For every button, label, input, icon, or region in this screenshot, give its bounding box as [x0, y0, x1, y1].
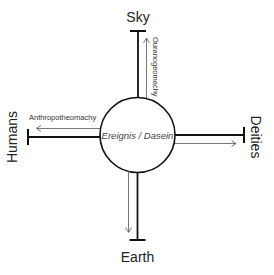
earth-label: Earth	[121, 249, 154, 265]
sky-label: Sky	[126, 9, 149, 25]
anthropotheomachy-label: Anthropotheomachy	[29, 113, 96, 122]
humans-axis: Anthropotheomachy Humans	[4, 111, 100, 163]
center-label: Ereignis / Dasein	[102, 130, 174, 141]
fourfold-diagram: Ereignis / Dasein Ouranogeomachy Sky Ant…	[0, 0, 274, 275]
diagram-canvas: Ereignis / Dasein Ouranogeomachy Sky Ant…	[0, 0, 274, 275]
arrow-right-icon	[175, 141, 236, 147]
arrow-left-icon	[37, 126, 101, 132]
sky-axis: Ouranogeomachy Sky	[126, 9, 160, 98]
arrow-up-icon	[144, 38, 150, 98]
deities-axis: Deities	[175, 116, 264, 159]
humans-label: Humans	[4, 111, 20, 163]
arrow-down-icon	[126, 171, 132, 233]
ouranogeomachy-label: Ouranogeomachy	[151, 37, 160, 97]
deities-label: Deities	[248, 116, 264, 159]
earth-axis: Earth	[121, 171, 154, 265]
